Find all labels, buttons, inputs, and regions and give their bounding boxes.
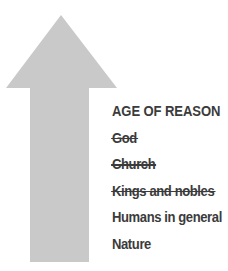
diagram-canvas: AGE OF REASON God Church Kings and noble… — [0, 0, 228, 271]
list-item: Nature — [112, 231, 216, 258]
list-item: Kings and nobles — [112, 178, 216, 205]
label-text: Nature — [112, 236, 151, 252]
list-item: God — [112, 125, 216, 152]
label-text: Kings and nobles — [112, 183, 214, 199]
list-item: Church — [112, 151, 216, 178]
label-text: Humans in general — [112, 209, 222, 225]
arrow-shape — [6, 15, 117, 262]
list-item: AGE OF REASON — [112, 98, 216, 125]
label-text: AGE OF REASON — [112, 103, 220, 119]
label-text: God — [112, 130, 137, 146]
label-text: Church — [112, 156, 155, 172]
list-item: Humans in general — [112, 204, 216, 231]
label-list: AGE OF REASON God Church Kings and noble… — [112, 98, 228, 257]
